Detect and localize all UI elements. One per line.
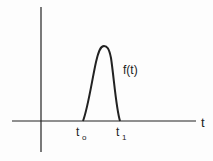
svg-text:t: t [116,125,120,139]
svg-text:t: t [76,125,80,139]
pulse-curve [83,46,120,121]
x-axis-label: t [201,115,205,130]
t1-label: t 1 [116,125,127,142]
svg-text:o: o [82,133,87,142]
diagram-canvas: f(t) t t o t 1 [0,0,213,161]
svg-text:1: 1 [122,133,127,142]
curve-label: f(t) [123,63,138,77]
pulse-diagram: f(t) t t o t 1 [0,0,213,161]
t0-label: t o [76,125,87,142]
